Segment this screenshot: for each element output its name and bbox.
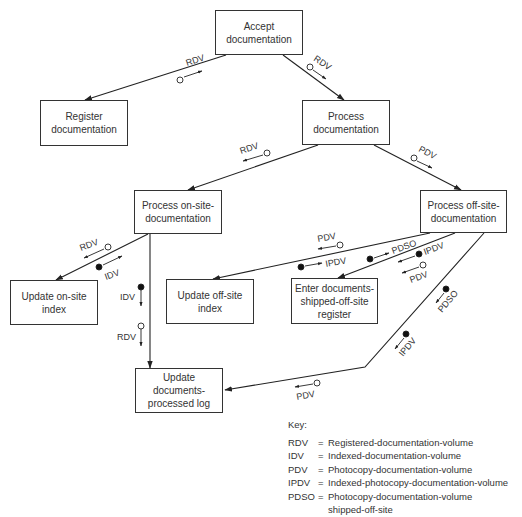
legend-entry: PDSO=Photocopy-documentation-volume ship… xyxy=(288,490,508,517)
couple-label: IDV xyxy=(103,267,121,282)
data-couple-icon xyxy=(138,323,144,329)
legend-abbr: IDV xyxy=(288,449,318,463)
control-couple-icon xyxy=(96,264,102,270)
couple-label: RDV xyxy=(239,141,260,156)
data-couple-icon xyxy=(337,242,343,248)
couple-label: PDV xyxy=(417,144,438,162)
couple-label: IDV xyxy=(120,292,135,302)
control-couple-icon xyxy=(367,256,373,262)
legend-entry: IDV=Indexed-documentation-volume xyxy=(288,449,508,463)
data-couple-icon xyxy=(411,155,417,161)
data-couple-icon xyxy=(264,150,270,156)
data-couple-icon xyxy=(420,262,426,268)
node-enter-documents-shipped-register: Enter documents-shipped-off-site registe… xyxy=(291,278,378,324)
control-couple-icon xyxy=(298,264,304,270)
node-update-onsite-index: Update on-site index xyxy=(10,280,98,325)
legend-abbr: PDV xyxy=(288,463,318,477)
couple-label: PDV xyxy=(317,231,337,244)
connector-onsite-upd-onsite xyxy=(56,234,148,280)
legend-abbr: RDV xyxy=(288,436,318,450)
control-couple-icon xyxy=(443,286,449,292)
node-register-documentation: Register documentation xyxy=(40,100,128,146)
data-couple-icon xyxy=(307,64,313,70)
legend-abbr: PDSO xyxy=(288,490,318,517)
legend-def: Indexed-documentation-volume xyxy=(328,449,461,463)
control-couple-icon xyxy=(416,251,422,257)
data-couple-icon xyxy=(105,244,111,250)
couple-label: RDV xyxy=(78,237,99,253)
couple-label: RDV xyxy=(312,53,333,72)
legend-def: Photocopy-documentation-volume xyxy=(328,463,472,477)
legend-def: Indexed-photocopy-documentation-volume xyxy=(328,476,508,490)
node-accept-documentation: Accept documentation xyxy=(215,10,303,55)
couple-label: IPDV xyxy=(422,240,445,257)
node-update-offsite-index: Update off-site index xyxy=(166,279,254,324)
couple-label: PDSO xyxy=(436,288,460,314)
legend-def: Photocopy-documentation-volume shipped-o… xyxy=(328,490,478,517)
couple-label: RDV xyxy=(185,53,206,68)
couple-label: RDV xyxy=(117,332,136,342)
legend: Key: RDV=Registered-documentation-volume… xyxy=(288,418,508,517)
legend-entry: PDV=Photocopy-documentation-volume xyxy=(288,463,508,477)
couple-label: PDV xyxy=(296,389,316,402)
legend-abbr: IPDV xyxy=(288,476,318,490)
node-process-offsite-documentation: Process off-site-documentation xyxy=(420,190,507,233)
control-couple-icon xyxy=(138,284,144,290)
legend-title: Key: xyxy=(288,418,508,432)
legend-def: Registered-documentation-volume xyxy=(328,436,473,450)
node-update-documents-processed-log: Update documents-processed log xyxy=(135,368,223,413)
node-process-onsite-documentation: Process on-site-documentation xyxy=(134,190,222,234)
control-couple-icon xyxy=(403,331,409,337)
legend-entry: RDV=Registered-documentation-volume xyxy=(288,436,508,450)
data-couple-icon xyxy=(314,380,320,386)
couple-label: IPDV xyxy=(397,336,418,359)
couple-label: PDV xyxy=(408,269,429,285)
legend-entry: IPDV=Indexed-photocopy-documentation-vol… xyxy=(288,476,508,490)
couple-label: IPDV xyxy=(325,255,347,268)
data-couple-icon xyxy=(177,77,183,83)
node-process-documentation: Process documentation xyxy=(302,100,390,145)
